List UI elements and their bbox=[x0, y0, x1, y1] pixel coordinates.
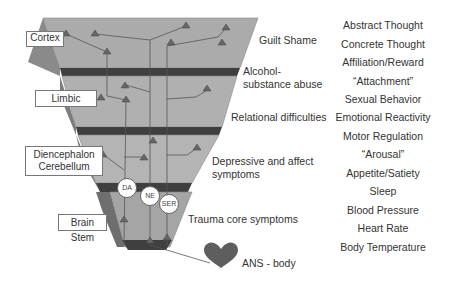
function-item: Sleep bbox=[323, 185, 443, 197]
band-2 bbox=[76, 127, 222, 135]
heart-icon bbox=[204, 242, 238, 268]
symptom-alcohol-line1: Alcohol- bbox=[243, 65, 322, 78]
function-item: Emotional Reactivity bbox=[323, 111, 443, 123]
symptom-relational: Relational difficulties bbox=[231, 111, 327, 124]
label-limbic: Limbic bbox=[35, 90, 97, 107]
label-diencephalon-cerebellum: Diencephalon Cerebellum bbox=[25, 146, 103, 176]
symptom-depressive: Depressive and affect symptoms bbox=[212, 155, 313, 181]
function-item: Affiliation/Reward bbox=[323, 56, 443, 68]
symptom-trauma: Trauma core symptoms bbox=[188, 213, 298, 226]
neurotransmitter-ser: SER bbox=[159, 194, 179, 214]
label-brain-stem: Brain Stem bbox=[58, 214, 107, 231]
neurotransmitter-da: DA bbox=[117, 178, 137, 198]
function-item: Motor Regulation bbox=[323, 130, 443, 142]
label-diencephalon: Diencephalon bbox=[26, 149, 102, 161]
label-cerebellum: Cerebellum bbox=[26, 161, 102, 173]
function-item: Blood Pressure bbox=[323, 204, 443, 216]
symptom-guilt-shame: Guilt Shame bbox=[259, 34, 317, 47]
function-item: Appetite/Satiety bbox=[323, 167, 443, 179]
function-item: Body Temperature bbox=[323, 241, 443, 253]
function-item: Sexual Behavior bbox=[323, 93, 443, 105]
symptom-alcohol-line2: substance abuse bbox=[243, 78, 322, 91]
label-cortex: Cortex bbox=[26, 31, 64, 47]
body-label: ANS - body bbox=[242, 257, 296, 270]
function-item: “Arousal” bbox=[323, 148, 443, 160]
symptom-alcohol: Alcohol- substance abuse bbox=[243, 65, 322, 91]
neurotransmitter-ne: NE bbox=[140, 186, 160, 206]
symptom-depressive-line2: symptoms bbox=[212, 168, 313, 181]
function-item: Concrete Thought bbox=[323, 38, 443, 50]
function-item: “Attachment” bbox=[323, 75, 443, 87]
function-item: Heart Rate bbox=[323, 222, 443, 234]
symptom-depressive-line1: Depressive and affect bbox=[212, 155, 313, 168]
function-item: Abstract Thought bbox=[323, 19, 443, 31]
